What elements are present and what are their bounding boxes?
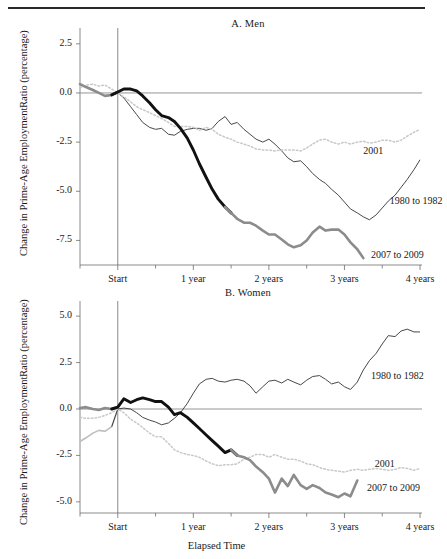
y-tick-label: -5.0 — [36, 495, 72, 506]
series-line-2007 — [225, 207, 363, 258]
x-tick-label: 4 years — [385, 521, 447, 532]
x-tick-label: 3 years — [309, 273, 379, 284]
x-axis-title: Elapsed Time — [0, 540, 433, 551]
x-tick-label: 2 years — [234, 521, 304, 532]
x-tick-label: 3 years — [309, 521, 379, 532]
y-tick-label: 0.0 — [36, 86, 72, 97]
header-rule — [8, 7, 425, 9]
y-tick-label: -5.0 — [36, 184, 72, 195]
series-annotation: 2007 to 2009 — [367, 482, 420, 493]
x-tick-label: 1 year — [158, 521, 228, 532]
series-line-2001 — [80, 84, 420, 151]
x-tick-label: Start — [83, 273, 153, 284]
y-tick-label: 5.0 — [36, 309, 72, 320]
series-line-2007-black — [112, 398, 237, 456]
series-line-2007-black — [112, 89, 231, 213]
series-line-2001 — [80, 409, 420, 472]
plot-area-women — [0, 283, 433, 559]
series-annotation: 2007 to 2009 — [371, 249, 424, 260]
y-tick-label: 2.5 — [36, 356, 72, 367]
y-tick-label: 2.5 — [36, 37, 72, 48]
series-annotation: 1980 to 1982 — [371, 370, 424, 381]
series-annotation: 2001 — [363, 145, 383, 156]
x-tick-label: 4 years — [385, 273, 447, 284]
x-tick-label: 1 year — [158, 273, 228, 284]
y-tick-label: -2.5 — [36, 135, 72, 146]
y-tick-label: -7.5 — [36, 233, 72, 244]
series-annotation: 2001 — [375, 458, 395, 469]
y-tick-label: -2.5 — [36, 448, 72, 459]
series-annotation: 1980 to 1982 — [390, 195, 443, 206]
x-tick-label: 2 years — [234, 273, 304, 284]
chart-panel-women: B. Women Change in Prime-Age EmploymentR… — [0, 283, 433, 559]
x-tick-label: Start — [83, 521, 153, 532]
y-tick-label: 0.0 — [36, 402, 72, 413]
